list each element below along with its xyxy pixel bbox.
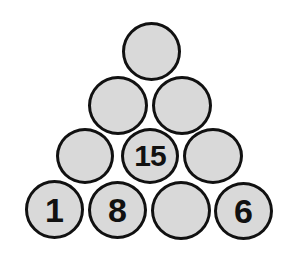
ball-r3-c3 xyxy=(183,128,243,184)
ball-r2-c2 xyxy=(152,76,212,135)
ball-r3-c2: 15 xyxy=(121,128,179,184)
ball-r1-c1 xyxy=(122,22,181,81)
ball-r4-c4: 6 xyxy=(214,182,273,240)
ball-r4-c2: 8 xyxy=(88,181,147,239)
ball-r2-c1 xyxy=(88,76,148,135)
ball-r4-c3 xyxy=(151,181,211,240)
ball-r4-c1: 1 xyxy=(25,180,84,239)
ball-r3-c1 xyxy=(56,128,114,184)
number-pyramid: 15 1 8 6 xyxy=(0,0,289,253)
